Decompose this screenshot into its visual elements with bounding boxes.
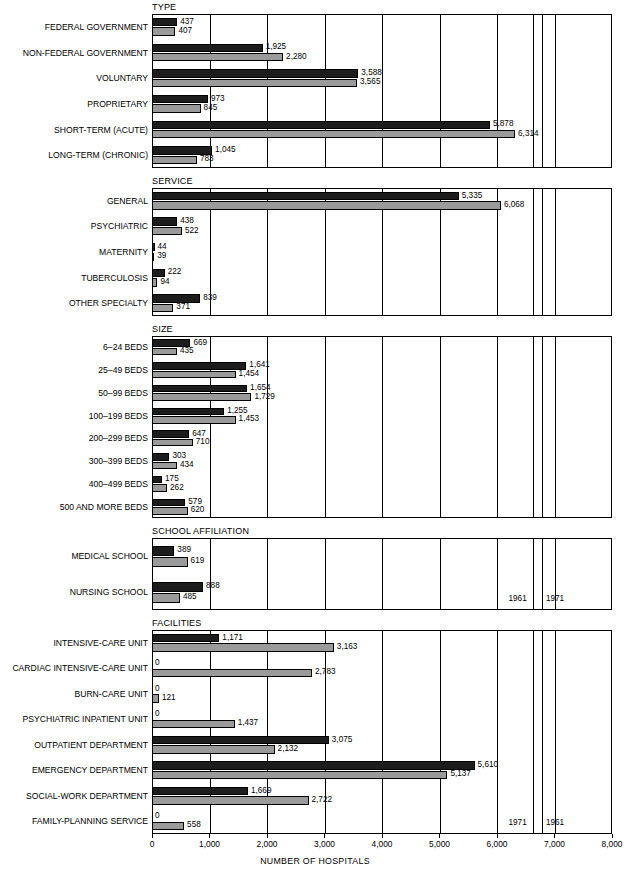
category-label: SHORT-TERM (ACUTE) — [0, 126, 148, 135]
gridline-1000 — [210, 15, 211, 167]
bar-value-1971: 39 — [157, 252, 166, 260]
category-label: 6–24 BEDS — [0, 343, 148, 352]
bar-1971 — [152, 227, 182, 235]
category-label: NON-FEDERAL GOVERNMENT — [0, 49, 148, 58]
bar-value-1971: 2,722 — [312, 796, 333, 804]
bar-1961 — [152, 453, 169, 461]
category-label: 100–199 BEDS — [0, 412, 148, 421]
category-label: PSYCHIATRIC INPATIENT UNIT — [0, 715, 148, 724]
bar-1971 — [152, 439, 193, 447]
legend-divider-1 — [542, 15, 543, 167]
category-label: MATERNITY — [0, 248, 148, 257]
x-tick-label: 2,000 — [257, 839, 278, 849]
category-label: 500 AND MORE BEDS — [0, 503, 148, 512]
bar-value-1971: 94 — [160, 278, 169, 286]
legend-divider-0 — [533, 337, 534, 517]
x-tick-7000 — [554, 834, 555, 838]
gridline-5000 — [440, 539, 441, 609]
bar-1971 — [152, 796, 309, 804]
bar-value-1961: 0 — [155, 659, 160, 667]
category-label: BURN-CARE UNIT — [0, 690, 148, 699]
bar-1961 — [152, 217, 177, 225]
panel-title-0: TYPE — [152, 2, 176, 12]
panel-title-3: SCHOOL AFFILIATION — [152, 526, 249, 536]
bar-1961 — [152, 408, 224, 416]
bar-1961 — [152, 269, 165, 277]
gridline-6000 — [497, 337, 498, 517]
panel-title-4: FACILITIES — [152, 618, 202, 628]
bar-value-1971: 3,565 — [360, 78, 381, 86]
x-tick-label: 5,000 — [429, 839, 450, 849]
bar-value-1971: 620 — [191, 506, 205, 514]
bar-1961 — [152, 582, 203, 592]
bar-1961 — [152, 634, 219, 642]
bar-1971 — [152, 416, 236, 424]
bar-value-1971: 434 — [180, 461, 194, 469]
bar-value-1971: 2,132 — [278, 745, 299, 753]
gridline-6000 — [497, 15, 498, 167]
bar-1971 — [152, 253, 154, 261]
bar-1961 — [152, 385, 247, 393]
bar-1971 — [152, 593, 180, 603]
legend-year-1971: 1971 — [509, 818, 527, 827]
bar-value-1971: 435 — [180, 347, 194, 355]
bar-value-1971: 522 — [185, 227, 199, 235]
bar-value-1961: 437 — [180, 18, 194, 26]
bar-value-1971: 5,137 — [450, 770, 471, 778]
bar-value-1971: 710 — [196, 438, 210, 446]
bar-1971 — [152, 27, 175, 35]
bar-value-1961: 3,588 — [361, 69, 382, 77]
category-label: TUBERCULOSIS — [0, 274, 148, 283]
gridline-5000 — [440, 631, 441, 833]
bar-value-1971: 2,783 — [315, 668, 336, 676]
bar-1961 — [152, 430, 189, 438]
x-tick-2000 — [267, 834, 268, 838]
gridline-6000 — [497, 631, 498, 833]
bar-1961 — [152, 69, 358, 77]
bar-1971 — [152, 393, 251, 401]
bar-1971 — [152, 669, 312, 677]
bar-1971 — [152, 130, 515, 138]
x-tick-6000 — [497, 834, 498, 838]
bar-1971 — [152, 720, 235, 728]
bar-value-1971: 558 — [187, 821, 201, 829]
bar-value-1971: 121 — [162, 694, 176, 702]
x-tick-0 — [152, 834, 153, 838]
category-label: FAMILY-PLANNING SERVICE — [0, 817, 148, 826]
bar-value-1971: 6,314 — [518, 130, 539, 138]
bar-value-1961: 1,045 — [215, 146, 236, 154]
bar-value-1971: 371 — [176, 303, 190, 311]
x-tick-4000 — [382, 834, 383, 838]
x-tick-8000 — [612, 834, 613, 838]
bar-1971 — [152, 79, 357, 87]
bar-1961 — [152, 362, 246, 370]
category-label: 300–399 BEDS — [0, 457, 148, 466]
category-label: MEDICAL SCHOOL — [0, 552, 148, 561]
bar-value-1961: 438 — [180, 217, 194, 225]
gridline-4000 — [382, 337, 383, 517]
legend-year-1971: 1971 — [546, 594, 564, 603]
gridline-5000 — [440, 337, 441, 517]
category-label: PROPRIETARY — [0, 100, 148, 109]
bar-value-1961: 1,669 — [251, 787, 272, 795]
category-label: NURSING SCHOOL — [0, 588, 148, 597]
bar-1961 — [152, 787, 248, 795]
bar-value-1971: 845 — [204, 104, 218, 112]
bar-1971 — [152, 371, 236, 379]
gridline-7000 — [555, 15, 556, 167]
bar-value-1971: 3,163 — [337, 643, 358, 651]
gridline-4000 — [382, 539, 383, 609]
hospital-statistics-chart: TYPEFEDERAL GOVERNMENT437407NON-FEDERAL … — [0, 0, 630, 873]
x-tick-label: 4,000 — [372, 839, 393, 849]
bar-value-1971: 485 — [183, 593, 197, 601]
bar-1971 — [152, 462, 177, 470]
bar-value-1961: 5,878 — [493, 120, 514, 128]
x-tick-1000 — [209, 834, 210, 838]
legend-divider-0 — [533, 15, 534, 167]
panel-title-2: SIZE — [152, 324, 173, 334]
bar-value-1971: 1,454 — [239, 370, 260, 378]
bar-value-1971: 1,453 — [239, 415, 260, 423]
bar-1971 — [152, 278, 157, 286]
panel-title-1: SERVICE — [152, 176, 193, 186]
legend-divider-1 — [542, 631, 543, 833]
